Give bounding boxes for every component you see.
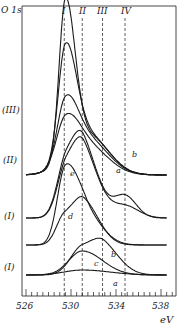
spectra-curves [26,0,167,275]
ref-line-label-II: II [78,6,87,16]
ref-line-label-I: I [61,6,66,16]
ref-line-label-III: III [96,6,108,16]
x-tick-label-526: 526 [16,301,33,311]
annotation-Il-a: a [113,279,118,288]
x-axis-unit: eV [160,314,175,325]
annotation-II-a: a [116,166,121,175]
group-label-I-lower: (I) [4,262,15,272]
x-tick-label-538: 538 [152,301,169,311]
curve-d [26,197,167,245]
curve-a [26,270,167,275]
plot-frame [22,6,176,296]
curve-III-3 [26,95,167,175]
annotation-Il-c: c [94,259,99,268]
curve-III-1 [26,0,167,175]
y-axis-label: O 1s [1,5,22,15]
group-label-II: (II) [3,155,18,165]
annotation-Iu-e: e [70,169,75,178]
annotation-Iu-d: d [68,212,73,221]
xps-spectra-chart: O 1s I II III IV (III) (II) (I) (I) a b … [0,0,184,330]
x-tick-label-530: 530 [62,301,79,311]
ref-line-label-IV: IV [120,6,133,16]
curve-III-4 [26,114,167,176]
curve-III-2 [26,43,167,175]
x-tick-label-534: 534 [108,301,125,311]
curve-a [26,137,167,218]
curve-e [26,164,167,245]
group-label-I-upper: (I) [4,211,15,221]
group-label-III: (III) [2,105,20,115]
annotation-II-b: b [132,150,137,159]
x-axis-ticks [26,289,172,296]
annotation-Il-b: b [111,250,116,259]
